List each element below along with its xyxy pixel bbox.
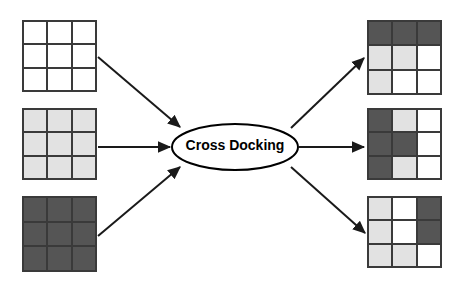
grid-cell <box>73 110 95 131</box>
grid-cell <box>48 110 70 131</box>
grid-cell <box>48 133 70 154</box>
cross-docking-label: Cross Docking <box>172 137 298 153</box>
grid-cell <box>369 22 391 44</box>
grid-cell <box>73 247 95 270</box>
grid-cell <box>393 46 415 68</box>
inbound-grid-3 <box>22 196 97 272</box>
inbound-grid-2 <box>22 108 97 180</box>
grid-cell <box>418 133 440 154</box>
arrow-outbound-3 <box>291 167 365 233</box>
grid-cell <box>24 22 46 43</box>
arrow-outbound-1 <box>291 58 364 128</box>
grid-cell <box>418 198 440 219</box>
grid-cell <box>24 198 46 221</box>
grid-cell <box>24 133 46 154</box>
grid-cell <box>369 245 391 266</box>
grid-cell <box>24 157 46 178</box>
grid-cell <box>24 69 46 90</box>
grid-cell <box>73 198 95 221</box>
grid-cell <box>393 245 415 266</box>
grid-cell <box>73 133 95 154</box>
grid-cell <box>393 110 415 131</box>
grid-cell <box>393 221 415 242</box>
grid-cell <box>48 247 70 270</box>
grid-cell <box>73 69 95 90</box>
grid-cell <box>418 46 440 68</box>
grid-cell <box>418 22 440 44</box>
grid-cell <box>24 247 46 270</box>
grid-cell <box>418 221 440 242</box>
outbound-grid-1 <box>367 20 442 95</box>
grid-cell <box>48 198 70 221</box>
cross-docking-node[interactable] <box>172 124 298 170</box>
grid-cell <box>73 22 95 43</box>
grid-cell <box>393 133 415 154</box>
grid-cell <box>418 157 440 178</box>
inbound-grid-1 <box>22 20 97 92</box>
grid-cell <box>418 71 440 93</box>
grid-cell <box>369 157 391 178</box>
outbound-grid-2 <box>367 108 442 180</box>
grid-cell <box>24 223 46 246</box>
grid-cell <box>24 110 46 131</box>
grid-cell <box>369 71 391 93</box>
grid-cell <box>48 22 70 43</box>
grid-cell <box>48 157 70 178</box>
grid-cell <box>369 46 391 68</box>
grid-cell <box>48 223 70 246</box>
grid-cell <box>369 133 391 154</box>
outbound-grid-3 <box>367 196 442 268</box>
grid-cell <box>369 198 391 219</box>
grid-cell <box>369 221 391 242</box>
grid-cell <box>393 22 415 44</box>
grid-cell <box>418 245 440 266</box>
grid-cell <box>48 45 70 66</box>
grid-cell <box>418 110 440 131</box>
grid-cell <box>48 69 70 90</box>
diagram-canvas: Cross Docking <box>0 0 461 290</box>
grid-cell <box>393 157 415 178</box>
grid-cell <box>393 71 415 93</box>
grid-cell <box>369 110 391 131</box>
grid-cell <box>73 157 95 178</box>
arrow-inbound-1 <box>98 57 180 127</box>
grid-cell <box>73 45 95 66</box>
arrow-group <box>98 57 365 236</box>
grid-cell <box>393 198 415 219</box>
grid-cell <box>73 223 95 246</box>
arrow-inbound-3 <box>98 167 180 236</box>
grid-cell <box>24 45 46 66</box>
